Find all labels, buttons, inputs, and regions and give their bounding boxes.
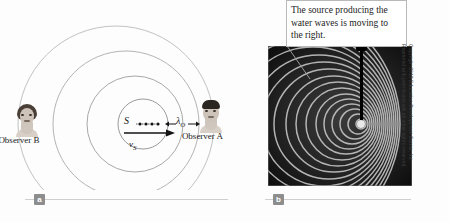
source-label: S bbox=[124, 115, 129, 126]
lambda-subscript: O bbox=[180, 121, 185, 129]
doppler-effect-figure: S vS λO Observer B bbox=[0, 0, 449, 222]
wave-source-rod bbox=[360, 46, 363, 124]
caption-callout: The source producing the water waves is … bbox=[286, 0, 407, 47]
part-a-rule-left bbox=[25, 199, 34, 200]
wavefront-circles bbox=[0, 0, 265, 190]
part-b-rule-right bbox=[284, 199, 411, 200]
caption-text: The source producing the water waves is … bbox=[291, 4, 402, 42]
part-a-rule-right bbox=[45, 199, 228, 200]
wavelength-label: λO bbox=[176, 115, 185, 129]
observer-b: Observer B bbox=[12, 104, 42, 145]
observer-a-head-icon bbox=[200, 100, 222, 130]
observer-a: Observer A bbox=[196, 100, 226, 141]
observer-b-head-icon bbox=[16, 104, 38, 134]
velocity-subscript: S bbox=[133, 144, 137, 152]
part-b-badge: b bbox=[273, 194, 284, 205]
part-b-rule-left bbox=[265, 199, 273, 200]
wave-source-rod-tip bbox=[356, 46, 367, 51]
copyright-credit: Copyright 2013 Education Development Cen… bbox=[392, 44, 414, 184]
part-a-badge: a bbox=[34, 194, 45, 205]
panel-a-diagram: S vS λO Observer B bbox=[0, 0, 265, 190]
source-velocity-label: vS bbox=[129, 139, 137, 152]
wave-source-point bbox=[357, 120, 365, 128]
